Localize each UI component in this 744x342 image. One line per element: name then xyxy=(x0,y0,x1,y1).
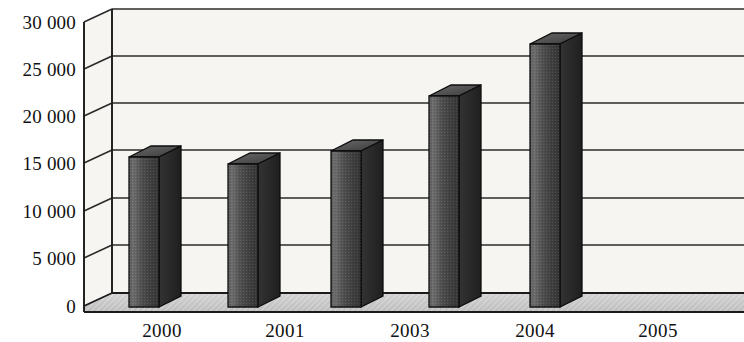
y-axis-labels: 30 000 25 000 20 000 15 000 10 000 5 000… xyxy=(23,12,76,317)
y-tick-label: 15 000 xyxy=(23,153,76,174)
y-tick-label: 25 000 xyxy=(23,59,76,80)
plot-walls xyxy=(84,9,744,312)
x-tick-label-2004: 2004 xyxy=(515,320,555,341)
bar-2000[interactable] xyxy=(129,146,181,307)
bar-2004[interactable] xyxy=(429,85,481,307)
bar-2005[interactable] xyxy=(530,33,582,307)
x-tick-label-2001: 2001 xyxy=(265,320,305,341)
y-tick-label: 0 xyxy=(66,296,76,317)
x-tick-label-2005: 2005 xyxy=(638,320,678,341)
bar-2001[interactable] xyxy=(228,153,280,307)
chart-container: 30 000 25 000 20 000 15 000 10 000 5 000… xyxy=(0,0,744,342)
x-tick-label-2000: 2000 xyxy=(142,320,182,341)
x-axis-labels: 2000 2001 2003 2004 2005 xyxy=(142,320,678,341)
y-tick-label: 30 000 xyxy=(23,12,76,33)
bar-2003[interactable] xyxy=(331,140,383,307)
floor-hatch xyxy=(84,293,744,312)
back-wall xyxy=(112,9,744,293)
column-chart-3d: 30 000 25 000 20 000 15 000 10 000 5 000… xyxy=(0,0,744,342)
left-wall xyxy=(84,9,112,306)
y-tick-label: 10 000 xyxy=(23,201,76,222)
x-tick-label-2003: 2003 xyxy=(390,320,430,341)
y-tick-label: 20 000 xyxy=(23,106,76,127)
y-tick-label: 5 000 xyxy=(32,248,76,269)
